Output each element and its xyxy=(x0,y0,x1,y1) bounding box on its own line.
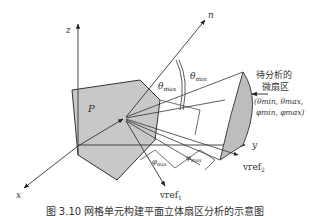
region-title-line2: 微扇区 xyxy=(262,81,289,92)
z-axis-label: z xyxy=(65,25,71,35)
normal-vector xyxy=(126,20,205,117)
phi-max-label: φmax xyxy=(186,154,202,163)
x-axis-label: x xyxy=(16,190,21,200)
sector-region xyxy=(220,72,253,160)
figure-caption: 图 3.10 网格单元构建平面立体扇区分析的示意图 xyxy=(0,203,310,216)
vref1-label: vref1 xyxy=(159,190,182,201)
normal-label: n xyxy=(208,10,214,20)
region-params-line1: (θmin, θmax, xyxy=(254,97,303,106)
y-axis-label: y xyxy=(251,140,258,150)
theta-max-label: θmax xyxy=(158,81,177,92)
plane-p xyxy=(72,80,160,180)
region-title-line1: 待分析的 xyxy=(256,69,292,80)
x-axis xyxy=(24,146,78,188)
diagram-canvas: z x y n θmax θmin φmin φmax vref2 vref1 … xyxy=(0,0,310,216)
theta-min-label: θmin xyxy=(190,71,207,82)
vref2-label: vref2 xyxy=(242,162,265,173)
plane-label: P xyxy=(87,103,95,114)
theta-max-arc xyxy=(176,60,182,110)
region-params-line2: φmin, φmax) xyxy=(256,108,304,117)
